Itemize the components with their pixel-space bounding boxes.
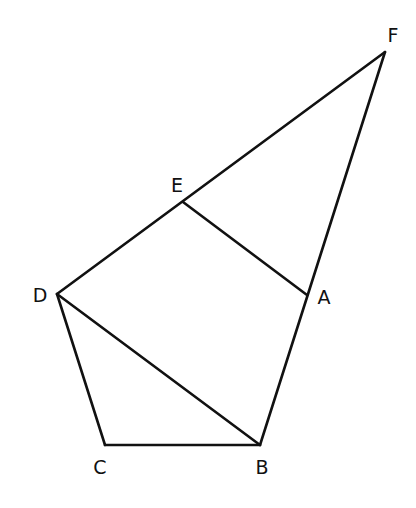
vertex-label-a: A [318, 286, 331, 308]
vertex-labels: FEDACB [33, 24, 399, 478]
vertex-label-d: D [33, 284, 48, 306]
vertex-label-b: B [255, 456, 268, 478]
segment-db [57, 294, 260, 445]
segment-ea [183, 202, 307, 295]
vertex-label-c: C [93, 456, 106, 478]
segment-df [57, 52, 385, 294]
segments [57, 52, 385, 445]
vertex-label-f: F [388, 24, 399, 46]
vertex-label-e: E [171, 174, 183, 196]
geometry-diagram: FEDACB [0, 0, 416, 508]
segment-fb [260, 52, 385, 445]
segment-dc [57, 294, 105, 445]
